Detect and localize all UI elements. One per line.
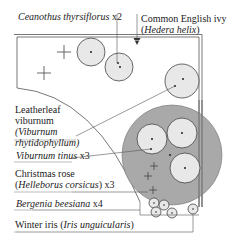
label-winter-iris: Winter iris (Iris unguicularis) — [15, 219, 134, 230]
label-christmas-rose-latin: Helleborus corsicus — [18, 179, 98, 190]
label-ceanothus: Ceanothus thyrsiflorus x2 — [18, 11, 122, 22]
label-ivy: Common English ivy (Hedera helix) — [141, 13, 227, 35]
ceanothus-plants — [77, 38, 133, 81]
ivy-marker-icon — [134, 38, 141, 45]
label-leatherleaf: Leatherleaf viburnum (Viburnum rhytidoph… — [15, 104, 79, 148]
label-bergenia-name: Bergenia beesiana — [16, 198, 90, 209]
label-leatherleaf-line1: Leatherleaf — [15, 104, 79, 115]
label-leatherleaf-line4: rhytidophyllum) — [15, 137, 79, 148]
paren: ) — [196, 24, 199, 35]
leatherleaf-plant — [165, 64, 199, 98]
label-winter-iris-common: Winter iris — [15, 219, 60, 230]
label-christmas-rose-common: Christmas rose — [15, 168, 114, 179]
label-winter-iris-latin: Iris unguicularis — [64, 219, 131, 230]
label-christmas-rose: Christmas rose (Helleborus corsicus) x3 — [15, 168, 114, 190]
label-ceanothus-name: Ceanothus thyrsiflorus — [18, 11, 109, 22]
label-bergenia: Bergenia beesiana x4 — [16, 198, 103, 209]
label-viburnum-tinus-name: Viburnum tinus — [16, 150, 77, 161]
label-bergenia-count: x4 — [90, 198, 103, 209]
label-ceanothus-count: x2 — [109, 11, 122, 22]
label-viburnum-tinus: Viburnum tinus x3 — [16, 150, 90, 161]
label-leatherleaf-line3: (Viburnum — [15, 126, 79, 137]
paren: ) — [130, 219, 133, 230]
canopy-shade — [122, 105, 222, 205]
label-viburnum-tinus-count: x3 — [77, 150, 90, 161]
label-leatherleaf-line2: viburnum — [15, 115, 79, 126]
label-ivy-latin: Hedera helix — [144, 24, 196, 35]
label-ivy-common: Common English ivy — [141, 13, 227, 24]
label-christmas-rose-count: ) x3 — [99, 179, 115, 190]
